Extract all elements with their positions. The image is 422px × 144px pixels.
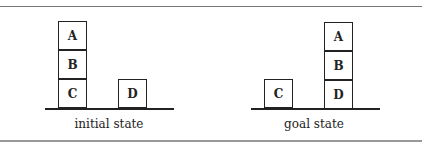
block-b: B (58, 50, 87, 79)
block-c: C (264, 79, 293, 108)
block-c: C (58, 79, 87, 108)
initial-state-caption: initial state (39, 117, 179, 131)
bottom-rule (0, 140, 422, 142)
block-a: A (324, 22, 353, 51)
block-d: D (118, 79, 147, 108)
table-surface (251, 108, 380, 110)
block-a: A (58, 21, 87, 50)
table-surface (45, 108, 174, 110)
block-b: B (324, 51, 353, 80)
top-rule (0, 6, 422, 7)
goal-state-caption: goal state (244, 117, 384, 131)
block-d: D (324, 80, 353, 109)
